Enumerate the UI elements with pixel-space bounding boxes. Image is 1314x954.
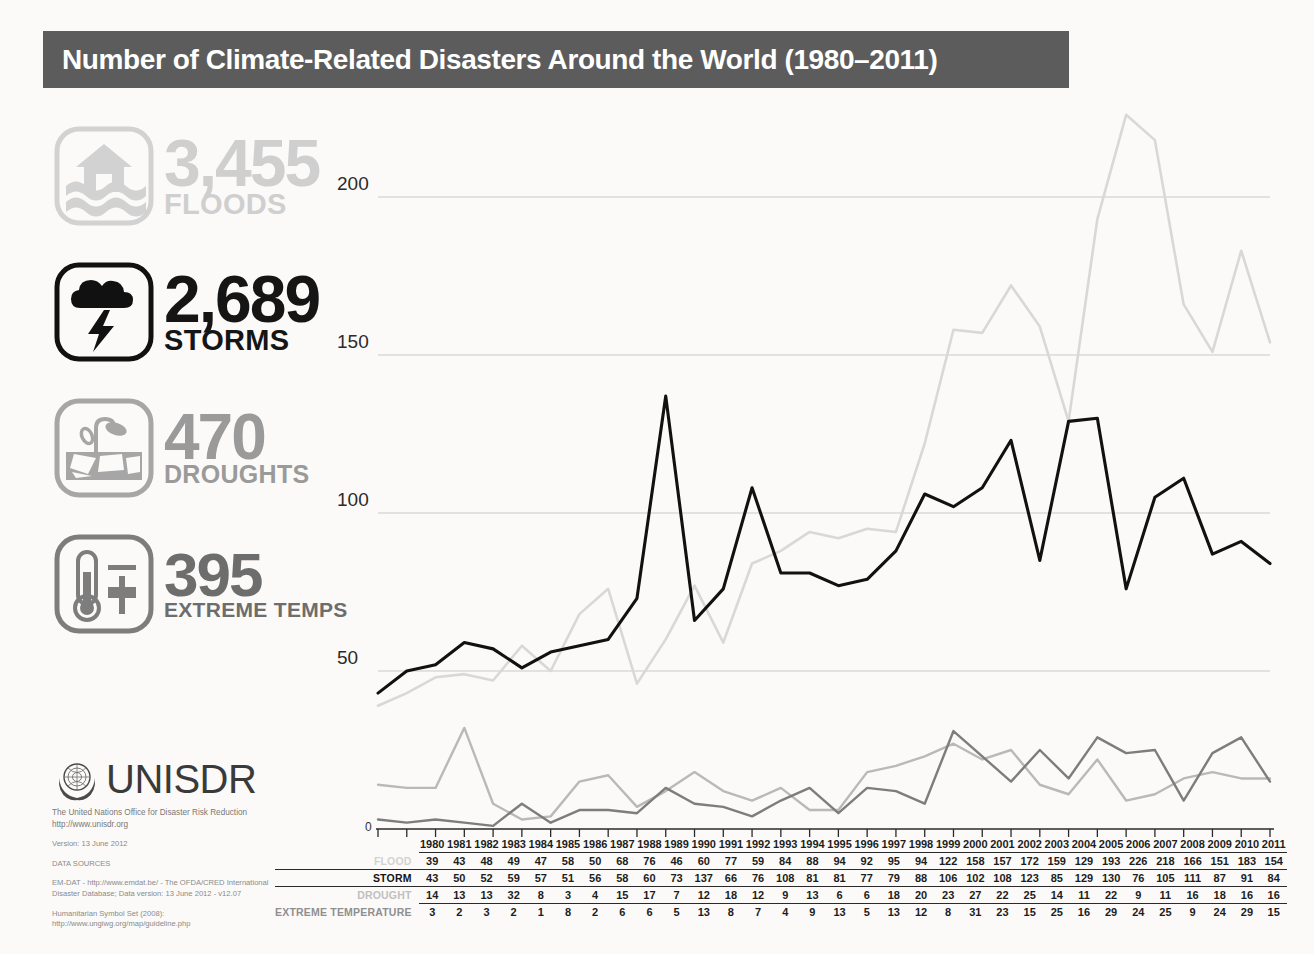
table-cell: 13 xyxy=(690,904,717,921)
table-cell: 12 xyxy=(745,887,772,904)
table-cell: 25 xyxy=(1043,904,1070,921)
table-cell: 166 xyxy=(1179,853,1206,870)
chart-series-layer xyxy=(378,115,1270,826)
unisdr-wordmark: UNISDR xyxy=(102,757,256,802)
table-cell: 16 xyxy=(1179,887,1206,904)
table-cell: 2011 xyxy=(1260,836,1287,853)
table-cell: 57 xyxy=(527,870,554,887)
table-cell: 1998 xyxy=(907,836,934,853)
data-source-symbols-line2[interactable]: http://www.ungiwg.org/map/guideline.php xyxy=(52,919,352,930)
table-cell: 7 xyxy=(663,887,690,904)
stat-floods: 3,455 FLOODS xyxy=(52,108,362,244)
y-zero-label: 0 xyxy=(365,820,372,834)
table-cell: 51 xyxy=(554,870,581,887)
table-cell: 81 xyxy=(799,870,826,887)
table-cell: 1986 xyxy=(582,836,609,853)
org-name: The United Nations Office for Disaster R… xyxy=(52,807,352,818)
table-cell: 105 xyxy=(1152,870,1179,887)
table-cell: 50 xyxy=(582,853,609,870)
table-cell: 58 xyxy=(554,853,581,870)
table-cell: 46 xyxy=(663,853,690,870)
series-line-flood xyxy=(378,115,1270,706)
stat-droughts-number: 470 xyxy=(164,411,309,465)
table-cell: 2006 xyxy=(1125,836,1152,853)
table-cell: 76 xyxy=(1125,870,1152,887)
table-cell: 1992 xyxy=(745,836,772,853)
table-cell: 6 xyxy=(609,904,636,921)
table-cell: 27 xyxy=(962,887,989,904)
table-cell: 16 xyxy=(1260,887,1287,904)
table-cell: 1996 xyxy=(853,836,880,853)
series-line-drought xyxy=(378,728,1270,820)
table-row: DROUGHT141313328341517712181291366182023… xyxy=(275,887,1287,904)
table-cell: 108 xyxy=(772,870,799,887)
table-cell: 122 xyxy=(935,853,962,870)
table-row: 1980198119821983198419851986198719881989… xyxy=(275,836,1287,853)
table-cell: 9 xyxy=(1179,904,1206,921)
table-cell: 172 xyxy=(1016,853,1043,870)
table-cell: 14 xyxy=(419,887,446,904)
table-cell: 2000 xyxy=(962,836,989,853)
table-cell: 1982 xyxy=(473,836,500,853)
table-cell: 1999 xyxy=(935,836,962,853)
table-cell: 1980 xyxy=(419,836,446,853)
table-cell: 50 xyxy=(446,870,473,887)
table-cell: 68 xyxy=(609,853,636,870)
table-cell: 2009 xyxy=(1206,836,1233,853)
table-cell: 47 xyxy=(527,853,554,870)
table-cell: 43 xyxy=(419,870,446,887)
unisdr-logo: UNISDR xyxy=(52,752,352,806)
thermometer-plus-icon xyxy=(52,532,156,636)
org-url[interactable]: http://www.unisdr.org xyxy=(52,819,352,830)
table-cell: 129 xyxy=(1070,853,1097,870)
row-label-storm: STORM xyxy=(275,870,419,887)
table-cell: 56 xyxy=(582,870,609,887)
table-cell: 108 xyxy=(989,870,1016,887)
table-cell: 79 xyxy=(880,870,907,887)
table-cell: 123 xyxy=(1016,870,1043,887)
table-cell: 88 xyxy=(799,853,826,870)
table-cell: 94 xyxy=(826,853,853,870)
table-cell: 6 xyxy=(853,887,880,904)
table-cell: 12 xyxy=(690,887,717,904)
table-cell: 2 xyxy=(446,904,473,921)
table-cell: 20 xyxy=(907,887,934,904)
series-line-extreme-temperature xyxy=(378,731,1270,826)
table-cell: 76 xyxy=(636,853,663,870)
table-cell: 16 xyxy=(1233,887,1260,904)
data-table: 1980198119821983198419851986198719881989… xyxy=(275,836,1287,920)
table-cell: 13 xyxy=(880,904,907,921)
table-cell: 15 xyxy=(1016,904,1043,921)
table-cell: 1984 xyxy=(527,836,554,853)
table-cell: 2005 xyxy=(1098,836,1125,853)
table-cell: 31 xyxy=(962,904,989,921)
row-label-extreme-temperature: EXTREME TEMPERATURE xyxy=(275,904,419,921)
table-cell: 1994 xyxy=(799,836,826,853)
table-cell: 1989 xyxy=(663,836,690,853)
table-cell: 11 xyxy=(1070,887,1097,904)
table-cell: 87 xyxy=(1206,870,1233,887)
table-cell: 2002 xyxy=(1016,836,1043,853)
table-row: STORM43505259575156586073137667610881817… xyxy=(275,870,1287,887)
table-cell: 84 xyxy=(1260,870,1287,887)
table-cell: 13 xyxy=(446,887,473,904)
table-cell: 2007 xyxy=(1152,836,1179,853)
chart-gridlines xyxy=(378,197,1270,671)
table-cell: 23 xyxy=(989,904,1016,921)
table-cell: 226 xyxy=(1125,853,1152,870)
table-cell: 84 xyxy=(772,853,799,870)
storm-cloud-lightning-icon xyxy=(52,260,156,364)
table-cell: 3 xyxy=(473,904,500,921)
table-cell: 12 xyxy=(907,904,934,921)
table-cell: 154 xyxy=(1260,853,1287,870)
table-cell: 18 xyxy=(717,887,744,904)
series-line-storm xyxy=(378,396,1270,693)
table-cell: 5 xyxy=(853,904,880,921)
table-cell: 1995 xyxy=(826,836,853,853)
table-cell: 52 xyxy=(473,870,500,887)
row-label-drought: DROUGHT xyxy=(275,887,419,904)
table-cell: 15 xyxy=(1260,904,1287,921)
table-cell: 1983 xyxy=(500,836,527,853)
stat-temps-label: EXTREME TEMPS xyxy=(164,601,348,619)
table-cell: 2 xyxy=(582,904,609,921)
